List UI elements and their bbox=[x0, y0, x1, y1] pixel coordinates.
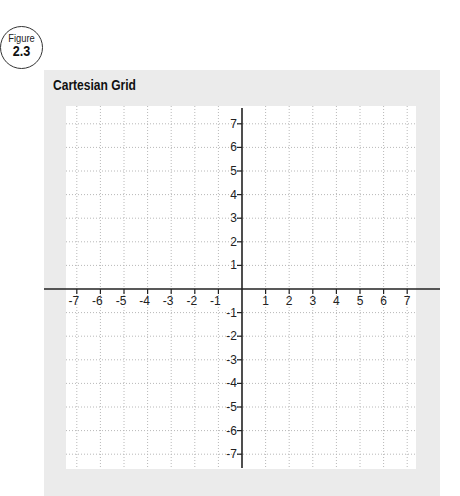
x-tick-label: -4 bbox=[139, 294, 150, 308]
y-tick-label: -6 bbox=[226, 424, 237, 438]
y-tick-label: 7 bbox=[230, 117, 237, 131]
y-tick-label: -2 bbox=[226, 329, 237, 343]
x-tick-label: -7 bbox=[68, 294, 79, 308]
y-tick-label: 2 bbox=[230, 235, 237, 249]
y-tick-label: 6 bbox=[230, 140, 237, 154]
y-tick-label: -3 bbox=[226, 353, 237, 367]
y-tick-label: -5 bbox=[226, 400, 237, 414]
y-tick-label: 1 bbox=[230, 258, 237, 272]
x-tick-label: 3 bbox=[309, 294, 316, 308]
x-tick-label: -3 bbox=[163, 294, 174, 308]
y-tick-label: 5 bbox=[230, 164, 237, 178]
x-tick-label: -5 bbox=[116, 294, 127, 308]
x-tick-label: 4 bbox=[333, 294, 340, 308]
x-tick-label: -2 bbox=[186, 294, 197, 308]
y-tick-label: 3 bbox=[230, 211, 237, 225]
x-tick-label: 7 bbox=[404, 294, 411, 308]
y-tick-label: -1 bbox=[226, 306, 237, 320]
y-tick-label: -4 bbox=[226, 376, 237, 390]
y-tick-label: -7 bbox=[226, 447, 237, 461]
x-tick-label: 5 bbox=[357, 294, 364, 308]
x-tick-label: 6 bbox=[380, 294, 387, 308]
x-tick-label: -6 bbox=[92, 294, 103, 308]
cartesian-grid: -7-6-5-4-3-2-112345677654321-1-2-3-4-5-6… bbox=[0, 0, 460, 496]
x-tick-label: 2 bbox=[286, 294, 293, 308]
x-tick-label: 1 bbox=[262, 294, 269, 308]
x-tick-label: -1 bbox=[210, 294, 221, 308]
y-tick-label: 4 bbox=[230, 188, 237, 202]
plot-area bbox=[66, 106, 416, 469]
